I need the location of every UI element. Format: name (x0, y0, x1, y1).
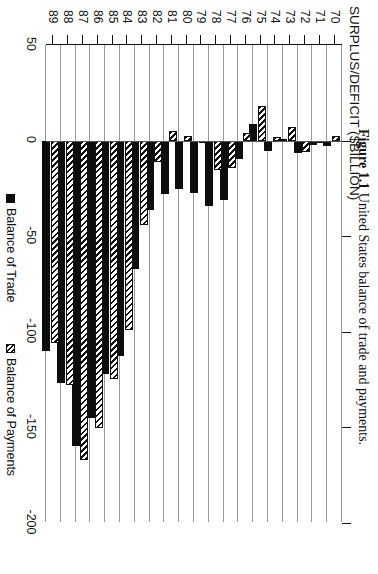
bar-group (327, 45, 342, 522)
bar-group (298, 45, 313, 522)
bar-trade (42, 141, 50, 351)
value-axis-label: -200 (24, 509, 38, 534)
bar-payments (169, 131, 177, 141)
category-axis-tick (319, 35, 320, 44)
category-axis-label: 72 (298, 10, 312, 23)
category-axis-label: 86 (91, 10, 105, 23)
category-axis-tick (289, 35, 290, 44)
bar-group (46, 45, 61, 522)
bar-group (312, 45, 327, 522)
category-axis-label: 75 (254, 10, 268, 23)
solid-black-swatch (7, 194, 16, 203)
category-axis-tick (141, 35, 142, 44)
legend-label: Balance of Trade (4, 208, 18, 303)
bar-group (283, 45, 298, 522)
figure-caption: Figure 1.1 United States balance of trad… (348, 0, 378, 574)
bar-payments (80, 141, 88, 460)
category-axis-tick (186, 35, 187, 44)
bar-group (268, 45, 283, 522)
bar-group (238, 45, 253, 522)
category-axis-label: 84 (120, 10, 134, 23)
legend-label: Balance of Payments (4, 358, 18, 476)
category-axis-label: 80 (180, 10, 194, 23)
bar-group (76, 45, 91, 522)
bar-group (90, 45, 105, 522)
category-axis-tick (67, 35, 68, 44)
zero-baseline (46, 141, 342, 142)
bar-payments (51, 141, 59, 344)
category-axis-tick (52, 35, 53, 44)
chart-canvas: SURPLUS/DEFICIT ($BILLION) 500-50-100-15… (0, 0, 378, 574)
bar-group (61, 45, 76, 522)
bar-group (135, 45, 150, 522)
category-axis-label: 81 (165, 10, 179, 23)
hatched-swatch (7, 344, 16, 353)
plot-area (46, 44, 342, 522)
bar-group (164, 45, 179, 522)
category-axis-label: 83 (135, 10, 149, 23)
category-axis-label: 70 (328, 10, 342, 23)
category-axis-tick (334, 35, 335, 44)
category-axis-tick (200, 35, 201, 44)
category-axis-tick (230, 35, 231, 44)
bar-payments (302, 141, 310, 152)
category-axis-label: 89 (46, 10, 60, 23)
category-axis-label: 73 (283, 10, 297, 23)
category-axis-tick (112, 35, 113, 44)
category-axis-label: 74 (268, 10, 282, 23)
bar-payments (125, 141, 133, 330)
value-axis-label: -50 (24, 226, 38, 244)
bar-group (209, 45, 224, 522)
category-axis-tick (260, 35, 261, 44)
bar-payments (95, 141, 103, 429)
category-axis-label: 77 (224, 10, 238, 23)
value-axis-label: 50 (24, 37, 38, 51)
bar-group (253, 45, 268, 522)
category-axis-tick (274, 35, 275, 44)
bar-group (224, 45, 239, 522)
category-axis-label: 78 (209, 10, 223, 23)
bar-group (194, 45, 209, 522)
category-axis-tick (82, 35, 83, 44)
category-axis-tick (97, 35, 98, 44)
category-axis-tick (304, 35, 305, 44)
category-axis-label: 88 (61, 10, 75, 23)
bar-payments (214, 141, 222, 170)
bar-payments (288, 127, 296, 141)
bar-group (105, 45, 120, 522)
value-axis-label: -100 (24, 318, 38, 343)
category-axis-label: 82 (150, 10, 164, 23)
category-axis-label: 79 (194, 10, 208, 23)
bar-group (179, 45, 194, 522)
figure-container: SURPLUS/DEFICIT ($BILLION) 500-50-100-15… (0, 0, 378, 574)
category-axis-label: 71 (313, 10, 327, 23)
bar-payments (258, 106, 266, 141)
caption-label: Figure 1.1 (356, 129, 371, 189)
category-axis-tick (215, 35, 216, 44)
bar-payments (154, 141, 162, 163)
legend-item: Balance of Payments (4, 344, 18, 476)
category-axis-label: 76 (239, 10, 253, 23)
bar-group (120, 45, 135, 522)
bar-payments (228, 141, 236, 169)
bar-payments (110, 141, 118, 379)
caption-text: United States balance of trade and payme… (356, 193, 371, 445)
category-axis-tick (245, 35, 246, 44)
value-axis-label: -150 (24, 414, 38, 439)
category-axis-tick (126, 35, 127, 44)
category-axis-label: 85 (106, 10, 120, 23)
category-axis-label: 87 (76, 10, 90, 23)
value-axis-label: 0 (24, 136, 38, 143)
category-axis-tick (171, 35, 172, 44)
legend-item: Balance of Trade (4, 194, 18, 303)
category-axis-tick (156, 35, 157, 44)
bar-payments (243, 133, 251, 141)
bar-payments (66, 141, 74, 386)
bar-payments (140, 141, 148, 226)
bar-group (150, 45, 165, 522)
